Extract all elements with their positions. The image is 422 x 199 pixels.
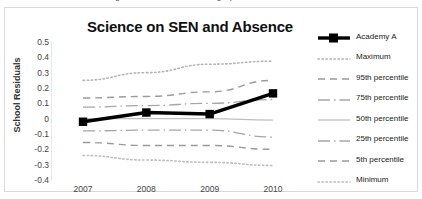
y-tick-label: -0.3 <box>19 160 49 170</box>
chart-legend: Academy AMaximum95th percentile75th perc… <box>317 26 422 190</box>
chart-svg <box>51 42 301 180</box>
series-layer <box>79 61 277 165</box>
legend-swatch-icon <box>317 133 351 145</box>
legend-item[interactable]: Minimum <box>317 170 422 191</box>
data-point-marker <box>205 110 213 118</box>
band-line <box>83 130 273 137</box>
legend-item[interactable]: Maximum <box>317 47 422 68</box>
band-line <box>83 80 273 98</box>
data-point-marker <box>142 108 150 116</box>
legend-swatch-icon <box>317 51 351 63</box>
series-maximum <box>83 61 273 80</box>
legend-label: Minimum <box>356 175 388 184</box>
y-tick-label: 0.5 <box>19 37 49 47</box>
x-tick-label: 2009 <box>200 184 219 194</box>
legend-label: 75th percentile <box>356 93 408 102</box>
clipped-text-strip: chart of science residuals against SEN a… <box>0 0 422 7</box>
band-line <box>83 61 273 80</box>
band-line <box>83 142 273 149</box>
y-tick-label: -0.2 <box>19 144 49 154</box>
y-tick-label: 0.3 <box>19 68 49 78</box>
legend-item[interactable]: 75th percentile <box>317 88 422 109</box>
legend-swatch-icon <box>317 153 351 165</box>
legend-item[interactable]: 25th percentile <box>317 129 422 150</box>
plot-area <box>51 42 301 180</box>
legend-label: 50th percentile <box>356 114 408 123</box>
legend-swatch-icon <box>317 71 351 83</box>
series-minimum <box>83 155 273 165</box>
legend-label: 5th percentile <box>356 155 404 164</box>
y-tick-label: 0.2 <box>19 83 49 93</box>
x-tick-label: 2008 <box>137 184 156 194</box>
legend-item[interactable]: Academy A <box>317 26 422 47</box>
chart-title: Science on SEN and Absence <box>65 18 315 35</box>
legend-swatch-icon <box>317 30 351 42</box>
legend-swatch-icon <box>317 92 351 104</box>
series-95th-percentile <box>83 80 273 98</box>
y-tick-label: 0 <box>19 114 49 124</box>
data-point-marker <box>79 118 87 126</box>
legend-label: Maximum <box>356 52 391 61</box>
legend-swatch-icon <box>317 112 351 124</box>
x-tick-label: 2007 <box>74 184 93 194</box>
x-axis-ticks: 2007200820092010 <box>51 184 301 198</box>
band-line <box>83 155 273 165</box>
data-point-marker <box>269 89 277 97</box>
y-tick-label: -0.1 <box>19 129 49 139</box>
x-tick-label: 2010 <box>264 184 283 194</box>
series-5th-percentile <box>83 142 273 149</box>
legend-label: Academy A <box>356 32 396 41</box>
y-axis-ticks: 0.50.40.30.20.10-0.1-0.2-0.3-0.4 <box>17 42 49 180</box>
legend-item[interactable]: 50th percentile <box>317 108 422 129</box>
legend-item[interactable]: 95th percentile <box>317 67 422 88</box>
y-tick-label: 0.1 <box>19 98 49 108</box>
y-tick-label: 0.4 <box>19 52 49 62</box>
clipped-text: chart of science residuals against SEN a… <box>6 0 240 1</box>
chart-frame: Science on SEN and Absence School Residu… <box>4 7 418 192</box>
series-academy-a <box>79 89 277 126</box>
series-25th-percentile <box>83 130 273 137</box>
legend-label: 95th percentile <box>356 73 408 82</box>
legend-label: 25th percentile <box>356 134 408 143</box>
legend-item[interactable]: 5th percentile <box>317 149 422 170</box>
legend-swatch-icon <box>317 174 351 186</box>
y-tick-label: -0.4 <box>19 175 49 185</box>
